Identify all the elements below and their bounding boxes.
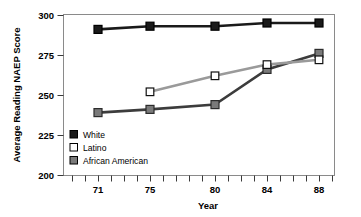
data-point-marker: [315, 56, 323, 64]
data-point-marker: [211, 101, 219, 109]
y-tick-labels: 300 275 250 225 200: [38, 10, 55, 181]
y-tick-label: 300: [38, 10, 54, 21]
x-axis-title: Year: [198, 200, 218, 211]
legend-label-african-american: African American: [83, 156, 148, 166]
legend-swatch-african-american: [70, 157, 78, 165]
x-tick-label: 71: [93, 184, 104, 195]
legend-swatch-latino: [70, 144, 78, 152]
data-point-marker: [315, 19, 323, 27]
y-axis-ticks: [58, 16, 64, 176]
legend-swatch-white: [70, 131, 78, 139]
y-tick-label: 275: [38, 50, 55, 61]
y-tick-label: 200: [38, 170, 54, 181]
data-point-marker: [94, 25, 102, 33]
naep-reading-line-chart: 300 275 250 225 200 Average Reading NAEP…: [0, 0, 361, 217]
y-axis-title: Average Reading NAEP Score: [11, 27, 22, 162]
data-point-marker: [146, 105, 154, 113]
data-point-marker: [146, 88, 154, 96]
data-point-marker: [211, 72, 219, 80]
x-tick-label: 75: [145, 184, 156, 195]
x-axis-ticks: [73, 176, 333, 182]
data-point-marker: [94, 109, 102, 117]
data-point-marker: [263, 19, 271, 27]
x-tick-labels: 71 75 80 84 88: [93, 184, 325, 195]
legend-label-white: White: [83, 130, 105, 140]
chart-container: 300 275 250 225 200 Average Reading NAEP…: [0, 0, 361, 217]
data-point-marker: [146, 22, 154, 30]
y-tick-label: 250: [38, 90, 54, 101]
x-tick-label: 80: [210, 184, 221, 195]
x-tick-label: 84: [262, 184, 273, 195]
legend-label-latino: Latino: [83, 143, 107, 153]
data-point-marker: [211, 22, 219, 30]
x-tick-label: 88: [314, 184, 325, 195]
data-point-marker: [263, 61, 271, 69]
y-tick-label: 225: [38, 130, 55, 141]
